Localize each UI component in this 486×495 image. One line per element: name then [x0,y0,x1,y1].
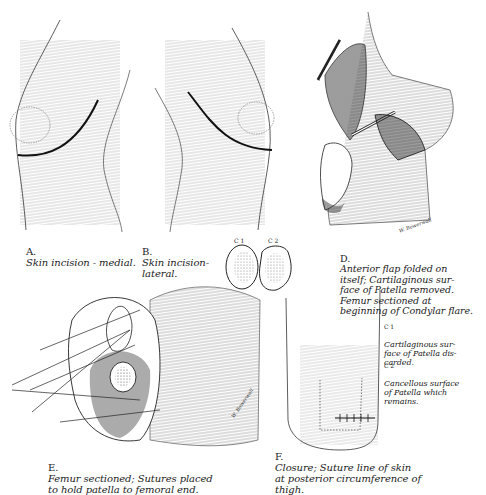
panel-a-knee-medial [10,20,130,232]
caption-a-text: Skin incision - medial. [26,257,136,268]
legend-c2: C 2 Cancellous surface of Patella which … [384,352,459,415]
legend-c1-key: C 1 [384,322,456,331]
caption-f-text: Closure; Suture line of skin at posterio… [275,462,421,495]
caption-d-label: D. [340,253,350,264]
caption-e-label: E. [48,462,58,473]
caption-b-label: B. [142,246,152,257]
caption-f-label: F. [275,451,283,462]
panel-c-patella-halves [226,245,291,290]
legend-c2-text: Cancellous surface of Patella which rema… [384,379,459,406]
panel-d-anterior-flap [318,12,453,225]
caption-a-label: A. [26,246,36,257]
panel-b-knee-lateral [155,28,274,232]
caption-f: F. Closure; Suture line of skin at poste… [275,440,421,495]
label-c2: C 2 [268,237,278,244]
caption-e: E. Femur sectioned; Sutures placed to ho… [48,451,213,495]
caption-e-text: Femur sectioned; Sutures placed to hold … [48,473,213,495]
caption-b-text: Skin incision- lateral. [142,257,209,279]
caption-d: D. Anterior flap folded on itself; Carti… [340,243,473,317]
caption-b: B. Skin incision- lateral. [142,235,209,279]
caption-a: A. Skin incision - medial. [26,235,136,268]
label-c1: C 1 [234,237,244,244]
panel-e-femur-sutures [12,287,260,446]
legend-c2-key: C 2 [384,361,459,370]
caption-d-text: Anterior flap folded on itself; Cartilag… [340,263,473,316]
